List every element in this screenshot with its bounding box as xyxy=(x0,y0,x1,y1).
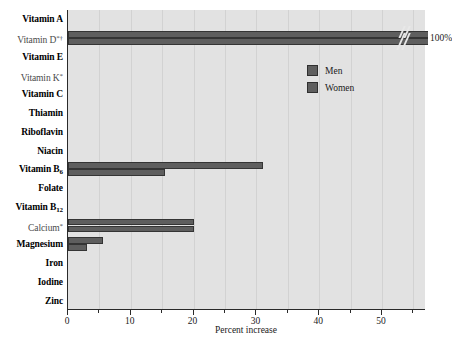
y-axis-label: Calcium* xyxy=(0,221,63,233)
x-axis-tick xyxy=(130,310,131,315)
y-axis-label: Vitamin E xyxy=(0,52,63,62)
y-axis-label: Vitamin B6 xyxy=(0,164,63,177)
y-axis-label: Thiamin xyxy=(0,108,63,118)
y-axis-label: Zinc xyxy=(0,296,63,306)
x-axis-minor-tick xyxy=(412,310,413,313)
bar xyxy=(68,162,263,169)
gridline xyxy=(162,10,163,310)
x-axis-tick xyxy=(67,310,68,315)
y-axis-label: Vitamin A xyxy=(0,14,63,24)
gridline xyxy=(194,10,195,310)
gridline xyxy=(351,10,352,310)
legend: Men Women xyxy=(307,62,397,96)
gridline xyxy=(413,10,414,310)
gridline xyxy=(131,10,132,310)
gridline xyxy=(288,10,289,310)
x-axis-minor-tick xyxy=(161,310,162,313)
legend-item-men: Men xyxy=(307,62,397,79)
bar xyxy=(68,244,87,251)
y-axis-label: Riboflavin xyxy=(0,127,63,137)
bar xyxy=(68,219,194,226)
y-axis-label: Vitamin B12 xyxy=(0,202,63,215)
bar xyxy=(68,226,194,233)
x-axis-tick xyxy=(255,310,256,315)
x-axis-minor-tick xyxy=(224,310,225,313)
bar xyxy=(68,169,165,176)
y-axis-label: Magnesium xyxy=(0,239,63,249)
gridline xyxy=(256,10,257,310)
x-axis-tick xyxy=(318,310,319,315)
y-axis-label: Iodine xyxy=(0,277,63,287)
legend-swatch-men xyxy=(307,65,318,76)
bar xyxy=(68,237,103,244)
gridline xyxy=(382,10,383,310)
y-axis-label: Vitamin C xyxy=(0,89,63,99)
legend-swatch-women xyxy=(307,82,318,93)
legend-label-men: Men xyxy=(325,66,342,76)
offscale-annotation: 100% xyxy=(430,33,452,43)
x-axis-title: Percent increase xyxy=(67,325,425,335)
legend-item-women: Women xyxy=(307,79,397,96)
y-axis-label: Vitamin K* xyxy=(0,71,63,83)
x-axis-minor-tick xyxy=(98,310,99,313)
y-axis-label: Iron xyxy=(0,258,63,268)
x-axis-tick xyxy=(381,310,382,315)
y-axis-label: Vitamin D*† xyxy=(0,33,63,45)
bar xyxy=(68,38,428,45)
x-axis-minor-tick xyxy=(287,310,288,313)
y-axis-label: Folate xyxy=(0,183,63,193)
gridline xyxy=(99,10,100,310)
x-axis-minor-tick xyxy=(350,310,351,313)
plot-area xyxy=(67,10,425,310)
legend-label-women: Women xyxy=(325,83,354,93)
x-axis-tick xyxy=(193,310,194,315)
gridline xyxy=(225,10,226,310)
y-axis-label: Niacin xyxy=(0,146,63,156)
bar xyxy=(68,31,428,38)
y-axis-labels: Vitamin AVitamin D*†Vitamin EVitamin K*V… xyxy=(0,10,63,310)
gridline xyxy=(319,10,320,310)
